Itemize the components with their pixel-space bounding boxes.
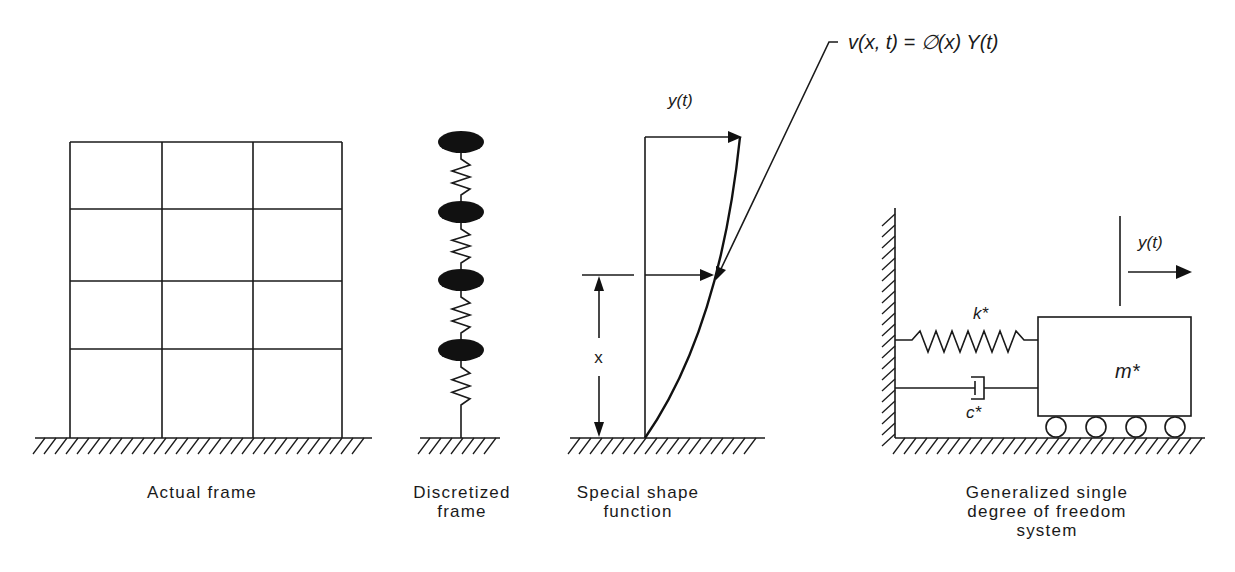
hatch-mark bbox=[1036, 438, 1048, 454]
hatch-mark bbox=[154, 438, 166, 454]
lumped-mass bbox=[438, 339, 484, 361]
hatch-mark bbox=[568, 438, 580, 454]
hatch-mark bbox=[143, 438, 155, 454]
hatch-mark bbox=[744, 438, 756, 454]
hatch-mark bbox=[645, 438, 657, 454]
lumped-mass bbox=[438, 201, 484, 223]
hatch-mark bbox=[882, 368, 895, 380]
hatch-mark bbox=[882, 324, 895, 336]
hatch-mark bbox=[297, 438, 309, 454]
hatch-mark bbox=[253, 438, 265, 454]
hatch-mark bbox=[352, 438, 364, 454]
hatch-mark bbox=[1069, 438, 1081, 454]
hatch-mark bbox=[733, 438, 745, 454]
roller-icon bbox=[1046, 417, 1066, 437]
wall-hatching bbox=[882, 214, 895, 446]
hatch-mark bbox=[882, 214, 895, 226]
hatch-mark bbox=[1190, 438, 1202, 454]
hatch-mark bbox=[1124, 438, 1136, 454]
hatch-mark bbox=[231, 438, 243, 454]
hatch-mark bbox=[882, 346, 895, 358]
hatch-mark bbox=[286, 438, 298, 454]
hatch-mark bbox=[612, 438, 624, 454]
hatch-mark bbox=[882, 302, 895, 314]
hatch-mark bbox=[1146, 438, 1158, 454]
hatch-mark bbox=[882, 313, 895, 325]
hatch-mark bbox=[451, 438, 463, 454]
hatch-mark bbox=[1091, 438, 1103, 454]
hatch-mark bbox=[689, 438, 701, 454]
caption-shape-line1: Special shape bbox=[577, 483, 699, 502]
hatch-mark bbox=[981, 438, 993, 454]
hatch-mark bbox=[110, 438, 122, 454]
hatch-mark bbox=[308, 438, 320, 454]
hatch-mark bbox=[678, 438, 690, 454]
caption-discretized-line1: Discretized bbox=[413, 483, 510, 502]
hatch-mark bbox=[165, 438, 177, 454]
spring-element bbox=[452, 361, 470, 438]
hatch-mark bbox=[623, 438, 635, 454]
shape-function-panel: y(t) x Special shape function bbox=[568, 91, 765, 521]
hatch-mark bbox=[77, 438, 89, 454]
hatch-mark bbox=[462, 438, 474, 454]
label-y-of-t: y(t) bbox=[1137, 233, 1163, 252]
hatch-mark bbox=[429, 438, 441, 454]
hatch-mark bbox=[882, 335, 895, 347]
deflected-shape-curve bbox=[645, 137, 740, 438]
hatch-mark bbox=[926, 438, 938, 454]
spring-element bbox=[452, 291, 470, 339]
discretized-frame-panel: Discretized frame bbox=[413, 131, 510, 521]
hatch-mark bbox=[473, 438, 485, 454]
ground-hatching bbox=[893, 438, 1205, 454]
hatch-mark bbox=[176, 438, 188, 454]
actual-frame-panel: Actual frame bbox=[33, 142, 372, 502]
caption-sdof-line1: Generalized single bbox=[966, 483, 1128, 502]
caption-sdof-line2: degree of freedom bbox=[967, 502, 1126, 521]
hatch-mark bbox=[99, 438, 111, 454]
hatch-mark bbox=[198, 438, 210, 454]
label-y-of-t: y(t) bbox=[667, 91, 693, 110]
hatch-mark bbox=[656, 438, 668, 454]
hatch-mark bbox=[319, 438, 331, 454]
hatch-mark bbox=[882, 423, 895, 435]
hatch-mark bbox=[992, 438, 1004, 454]
hatch-mark bbox=[1168, 438, 1180, 454]
hatch-mark bbox=[187, 438, 199, 454]
roller-icon bbox=[1165, 417, 1185, 437]
hatch-mark bbox=[882, 247, 895, 259]
hatch-mark bbox=[484, 438, 496, 454]
hatch-mark bbox=[1080, 438, 1092, 454]
arrow-right-icon bbox=[1176, 265, 1192, 279]
hatch-mark bbox=[882, 379, 895, 391]
hatch-mark bbox=[44, 438, 56, 454]
hatch-mark bbox=[915, 438, 927, 454]
hatch-mark bbox=[882, 434, 895, 446]
label-m-star: m* bbox=[1115, 360, 1141, 382]
spring-element bbox=[452, 153, 470, 201]
hatch-mark bbox=[88, 438, 100, 454]
hatch-mark bbox=[937, 438, 949, 454]
arrow-down-icon bbox=[594, 422, 604, 437]
hatch-mark bbox=[33, 438, 45, 454]
hatch-mark bbox=[242, 438, 254, 454]
hatch-mark bbox=[1135, 438, 1147, 454]
hatch-mark bbox=[904, 438, 916, 454]
spring-k bbox=[895, 331, 1038, 352]
structural-dynamics-diagram: v(x, t) = ∅(x) Y(t) Actual frame Discret… bbox=[0, 0, 1235, 572]
hatch-mark bbox=[341, 438, 353, 454]
frame-grid bbox=[70, 142, 342, 438]
hatch-mark bbox=[440, 438, 452, 454]
hatch-mark bbox=[711, 438, 723, 454]
caption-shape-line2: function bbox=[603, 502, 672, 521]
spring-element bbox=[452, 223, 470, 269]
label-x: x bbox=[594, 348, 604, 367]
hatch-mark bbox=[722, 438, 734, 454]
hatch-mark bbox=[1025, 438, 1037, 454]
hatch-mark bbox=[882, 401, 895, 413]
hatch-mark bbox=[882, 291, 895, 303]
ground-hatching bbox=[568, 438, 765, 454]
arrow-up-icon bbox=[594, 276, 604, 291]
hatch-mark bbox=[418, 438, 430, 454]
lumped-mass-spring-chain bbox=[438, 131, 484, 438]
hatch-mark bbox=[882, 390, 895, 402]
